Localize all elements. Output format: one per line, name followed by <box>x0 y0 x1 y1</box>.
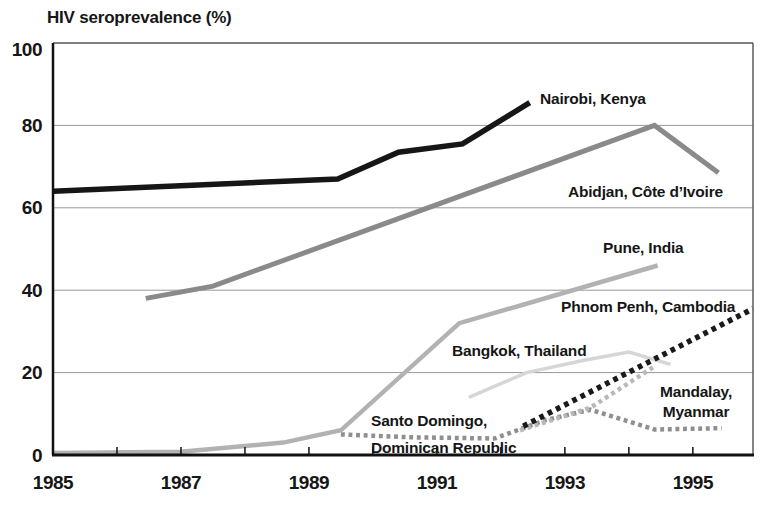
series-line-mandalay <box>520 366 654 430</box>
x-tick-label-1995: 1995 <box>673 472 714 493</box>
series-label-nairobi: Nairobi, Kenya <box>540 90 646 107</box>
x-tick-label-1993: 1993 <box>545 472 585 493</box>
chart-title: HIV seroprevalence (%) <box>47 8 232 28</box>
x-tick-label-1991: 1991 <box>417 472 458 493</box>
series-label-mandalay-line1: Mandalay, <box>660 383 732 400</box>
series-label-mandalay-line2: Myanmar <box>663 403 730 420</box>
x-tick-label-1985: 1985 <box>33 472 74 493</box>
y-tick-label-60: 60 <box>22 197 42 218</box>
series-label-santo-domingo-line2: Dominican Republic <box>371 439 517 456</box>
x-tick-label-1987: 1987 <box>161 472 201 493</box>
series-label-santo-domingo-line1: Santo Domingo, <box>371 412 487 429</box>
x-tick-label-1989: 1989 <box>289 472 329 493</box>
y-tick-label-80: 80 <box>22 115 42 136</box>
series-line-pune <box>53 266 658 453</box>
series-line-nairobi <box>53 103 530 192</box>
series-label-phnom-penh: Phnom Penh, Cambodia <box>561 298 736 315</box>
series-label-bangkok: Bangkok, Thailand <box>452 342 586 359</box>
y-tick-label-0: 0 <box>32 445 42 466</box>
series-label-pune: Pune, India <box>603 239 684 256</box>
y-tick-label-100: 100 <box>12 39 42 60</box>
series-label-abidjan: Abidjan, Côte d’Ivoire <box>568 183 724 200</box>
y-tick-label-40: 40 <box>22 280 42 301</box>
chart-svg: 198519871989199119931995020406080100Nair… <box>0 0 762 506</box>
y-tick-label-20: 20 <box>22 362 42 383</box>
hiv-seroprevalence-chart: HIV seroprevalence (%) 19851987198919911… <box>0 0 762 506</box>
